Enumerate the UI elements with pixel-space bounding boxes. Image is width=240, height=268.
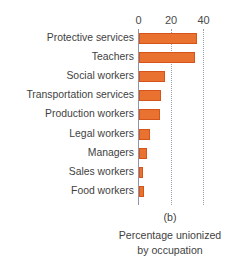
bar-chart-figure: 0 20 40 Protective services Teachers Soc… [0, 0, 240, 268]
x-tick-label-20: 20 [165, 14, 177, 26]
bar-row: Food workers [0, 184, 240, 203]
bar-teachers [139, 52, 196, 63]
figure-caption: (b) Percentage unionized by occupation [100, 210, 240, 258]
bar-protective-services [139, 33, 198, 44]
panel-letter: (b) [100, 210, 240, 225]
category-label: Food workers [6, 184, 134, 197]
category-label: Social workers [6, 69, 134, 82]
x-tick-label-0: 0 [136, 14, 142, 26]
category-label: Sales workers [6, 165, 134, 178]
bar-production-workers [139, 109, 160, 120]
bar-row: Sales workers [0, 165, 240, 184]
caption-line-2: by occupation [100, 243, 240, 258]
bar-social-workers [139, 71, 165, 82]
bar-food-workers [139, 186, 145, 197]
category-label: Protective services [6, 31, 134, 44]
bar-sales-workers [139, 167, 144, 178]
bar-legal-workers [139, 129, 150, 140]
category-label: Managers [6, 146, 134, 159]
bar-row: Legal workers [0, 127, 240, 146]
bar-row: Production workers [0, 107, 240, 126]
x-tick-label-40: 40 [197, 14, 209, 26]
category-label: Transportation services [6, 88, 134, 101]
bar-transportation-services [139, 90, 162, 101]
bar-row: Managers [0, 146, 240, 165]
bar-row: Teachers [0, 50, 240, 69]
category-label: Legal workers [6, 127, 134, 140]
plot-area: 0 20 40 Protective services Teachers Soc… [0, 0, 240, 206]
category-label: Production workers [6, 107, 134, 120]
bar-row: Protective services [0, 31, 240, 50]
bar-managers [139, 148, 147, 159]
category-label: Teachers [6, 50, 134, 63]
caption-line-1: Percentage unionized [100, 228, 240, 243]
bar-row: Transportation services [0, 88, 240, 107]
bar-row: Social workers [0, 69, 240, 88]
